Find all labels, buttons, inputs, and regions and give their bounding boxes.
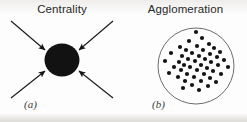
cluster-dot (163, 59, 167, 63)
cluster-dot (200, 36, 204, 40)
cluster-dot (182, 63, 186, 67)
cluster-dot (190, 83, 194, 87)
cluster-dot (192, 75, 196, 79)
cluster-dot (190, 51, 194, 55)
cluster-dot (208, 76, 212, 80)
cluster-dot (197, 54, 201, 58)
cluster-dot (211, 69, 215, 73)
arrow-top-right (79, 21, 113, 50)
cluster-dot (226, 65, 230, 69)
cluster-dot (195, 68, 199, 72)
cluster-dot (212, 46, 216, 50)
cluster-dot (181, 86, 185, 90)
cluster-dot (219, 72, 223, 76)
cluster-dot (179, 68, 183, 72)
arrow-top-left (11, 21, 45, 50)
panel-agglomeration: Agglomeration (b) (124, 0, 247, 122)
cluster-dot (193, 59, 197, 63)
cluster-dot (195, 44, 199, 48)
cluster-dot (214, 80, 218, 84)
region-boundary-circle (158, 28, 234, 104)
panel-label-b: (b) (152, 98, 165, 111)
arrow-bottom-left (11, 71, 45, 98)
figure-container: Centrality (a) Agglomeration (b) (0, 0, 247, 122)
cluster-dot (187, 39, 191, 43)
cluster-dot (169, 51, 173, 55)
cluster-dot (199, 79, 203, 83)
cluster-dot (209, 60, 213, 64)
arrow-bottom-right (79, 71, 113, 98)
centrality-diagram (0, 0, 124, 122)
cluster-dot (208, 52, 212, 56)
central-core-blob (45, 44, 80, 77)
cluster-dot (222, 58, 226, 62)
cluster-dot (203, 57, 207, 61)
cluster-dot (207, 42, 211, 46)
cluster-dot (177, 60, 181, 64)
dot-cluster-icon (163, 30, 230, 92)
cluster-dot (185, 72, 189, 76)
cluster-dot (201, 48, 205, 52)
cluster-dot (183, 79, 187, 83)
cluster-dot (178, 45, 182, 49)
cluster-dot (199, 63, 203, 67)
cluster-dot (186, 57, 190, 61)
cluster-dot (218, 50, 222, 54)
cluster-dot (184, 48, 188, 52)
panel-label-a: (a) (24, 98, 37, 111)
cluster-dot (194, 30, 198, 34)
cluster-dot (206, 84, 210, 88)
panel-centrality: Centrality (a) (0, 0, 124, 122)
cluster-dot (167, 71, 171, 75)
cluster-dot (172, 65, 176, 69)
cluster-dot (197, 88, 201, 92)
cluster-dot (215, 55, 219, 59)
cluster-dot (180, 54, 184, 58)
cluster-dot (176, 75, 180, 79)
cluster-dot (216, 63, 220, 67)
agglomeration-diagram (124, 0, 247, 122)
cluster-dot (205, 66, 209, 70)
cluster-dot (188, 65, 192, 69)
cluster-dot (202, 72, 206, 76)
